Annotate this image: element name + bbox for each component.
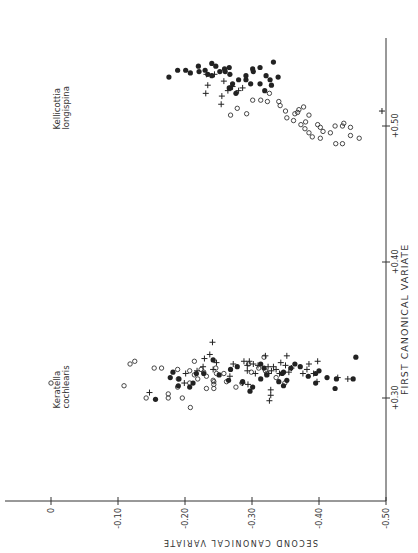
cross-point — [306, 361, 312, 367]
filled-circle-point — [170, 370, 175, 375]
cross-point — [207, 351, 213, 357]
open-circle-point — [318, 136, 322, 140]
cross-point — [146, 390, 152, 396]
open-circle-point — [122, 384, 126, 388]
cross-point — [345, 376, 351, 382]
filled-circle-point — [168, 375, 173, 380]
first-variate-ticks: +0.30+0.40+0.50 — [382, 113, 400, 410]
open-circle-point — [144, 396, 148, 400]
open-circle-point — [348, 125, 352, 129]
filled-circle-point — [248, 81, 253, 86]
filled-circle-point — [262, 88, 267, 93]
y-tick-label: -0.50 — [382, 508, 391, 529]
open-circle-point — [285, 116, 289, 120]
open-circle-point — [196, 377, 200, 381]
cross-point — [200, 364, 206, 370]
open-circle-point — [321, 129, 325, 133]
open-circle-point — [175, 367, 179, 371]
open-circle-point — [228, 113, 232, 117]
filled-circle-point — [243, 77, 248, 82]
open-circle-point — [348, 133, 352, 137]
y-tick-label: -0.10 — [114, 508, 123, 529]
filled-circle-point — [187, 385, 192, 390]
cross-point — [268, 392, 274, 398]
filled-circle-point — [250, 66, 255, 71]
cross-point — [278, 360, 284, 366]
filled-circle-point — [353, 355, 358, 360]
filled-circle-point — [257, 65, 262, 70]
cross-point — [250, 361, 256, 367]
open-circle-point — [244, 112, 248, 116]
cross-point — [273, 366, 279, 372]
open-circle-point — [235, 106, 239, 110]
annotations: KeratellacochlearisKellicottialongispina — [52, 86, 71, 408]
filled-circle-point — [228, 367, 233, 372]
open-circle-point — [307, 131, 311, 135]
open-circle-point — [301, 105, 305, 109]
filled-circle-point — [166, 74, 171, 79]
species-label: cochlearis — [61, 365, 71, 409]
cross-point — [181, 380, 187, 386]
cross-point — [245, 381, 251, 387]
filled-circle-point — [183, 68, 188, 73]
cross-point — [219, 93, 225, 99]
filled-circle-point — [235, 364, 240, 369]
open-circle-point — [315, 122, 319, 126]
filled-circle-point — [316, 368, 321, 373]
filled-circle-point — [267, 77, 272, 82]
open-circle-point — [133, 359, 137, 363]
x-axis-label: FIRST CANONICAL VARIATE — [399, 244, 410, 395]
filled-circle-point — [201, 371, 206, 376]
open-circle-point — [180, 396, 184, 400]
open-circle-point — [340, 141, 344, 145]
cross-point — [315, 358, 321, 364]
filled-circle-point — [223, 69, 228, 74]
filled-circle-point — [258, 376, 263, 381]
cross-point — [268, 387, 274, 393]
filled-circle-point — [217, 372, 222, 377]
filled-circle-point — [188, 70, 193, 75]
filled-circle-point — [332, 386, 337, 391]
open-circle-point — [303, 127, 307, 131]
filled-circle-point — [153, 397, 158, 402]
open-circle-point — [283, 109, 287, 113]
open-circle-point — [277, 99, 281, 103]
filled-circle-point — [276, 74, 281, 79]
filled-circle-point — [257, 81, 262, 86]
filled-circle-point — [263, 73, 268, 78]
cross-point — [262, 353, 268, 359]
cross-point — [218, 101, 224, 107]
open-circle-point — [299, 122, 303, 126]
open-circle-point — [333, 124, 337, 128]
filled-circle-point — [271, 59, 276, 64]
open-circle-point — [234, 385, 238, 389]
open-circle-point — [187, 369, 191, 373]
y-axis-label: SECOND CANONICAL VARIATE — [162, 538, 318, 547]
cross-point — [201, 356, 207, 362]
cross-point — [379, 108, 385, 114]
open-circle-point — [159, 366, 163, 370]
cross-point — [300, 371, 306, 377]
filled-circle-point — [292, 361, 297, 366]
data-points — [49, 59, 385, 409]
cross-point — [241, 358, 247, 364]
filled-circle-point — [233, 91, 238, 96]
filled-circle-point — [324, 375, 329, 380]
filled-circle-point — [276, 379, 281, 384]
cross-point — [266, 398, 272, 404]
cross-point — [221, 78, 227, 84]
cross-point — [240, 85, 246, 91]
y-tick-label: -0.40 — [315, 508, 324, 529]
filled-circle-point — [250, 385, 255, 390]
open-circle-point — [259, 98, 263, 102]
cross-point — [283, 362, 289, 368]
open-circle-point — [318, 125, 322, 129]
y-tick-label: -0.30 — [248, 508, 257, 529]
open-circle-point — [307, 113, 311, 117]
filled-circle-point — [196, 69, 201, 74]
filled-circle-point — [175, 68, 180, 73]
filled-circle-point — [213, 64, 218, 69]
filled-circle-point — [351, 376, 356, 381]
open-circle-point — [303, 120, 307, 124]
filled-circle-point — [269, 83, 274, 88]
